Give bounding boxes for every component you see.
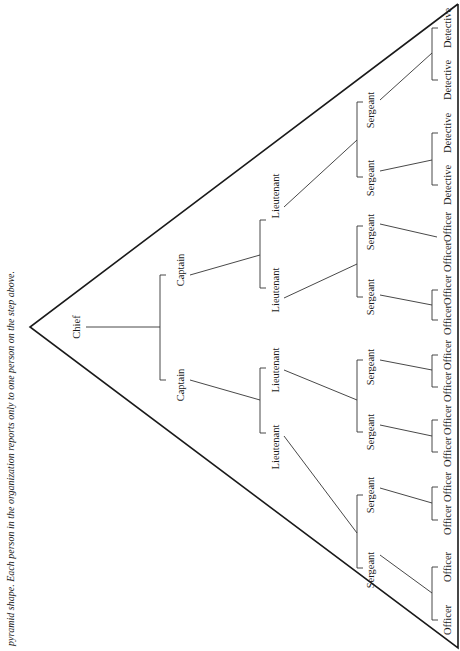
- node-officer: Officer: [442, 274, 453, 305]
- connector-line: [190, 255, 260, 275]
- node-sergeant: Sergeant: [365, 160, 376, 197]
- node-sergeant: Sergeant: [365, 279, 376, 316]
- reporting-lines: [86, 28, 438, 620]
- node-lieutenant: Lieutenant: [270, 424, 281, 469]
- node-officer: Officer: [442, 504, 453, 535]
- connector-line: [190, 380, 260, 400]
- connector-line: [284, 264, 357, 298]
- node-detective: Detective: [442, 60, 453, 101]
- node-officer: Officer: [442, 371, 453, 402]
- node-officer: Officer: [442, 241, 453, 272]
- node-chief: Chief: [71, 315, 82, 339]
- node-lieutenant: Lieutenant: [270, 267, 281, 312]
- node-detective: Detective: [442, 165, 453, 206]
- node-sergeant: Sergeant: [365, 414, 376, 451]
- node-officer: Officer: [442, 404, 453, 435]
- connector-line: [380, 53, 432, 100]
- connector-line: [380, 555, 432, 593]
- node-officer: Officer: [442, 471, 453, 502]
- connector-line: [380, 295, 432, 305]
- node-sergeant: Sergeant: [365, 92, 376, 129]
- node-officer: Officer: [442, 304, 453, 335]
- node-sergeant: Sergeant: [365, 552, 376, 589]
- org-nodes: ChiefCaptainCaptainLieutenantLieutenantL…: [71, 8, 453, 636]
- figure-caption: pyramid shape. Each person in the organi…: [5, 271, 16, 647]
- node-sergeant: Sergeant: [365, 349, 376, 386]
- node-sergeant: Sergeant: [365, 214, 376, 251]
- node-officer: Officer: [442, 551, 453, 582]
- node-captain: Captain: [175, 368, 186, 401]
- pyramid-outline: [30, 4, 458, 648]
- connector-line: [380, 488, 432, 503]
- node-sergeant: Sergeant: [365, 477, 376, 514]
- node-officer: Officer: [442, 436, 453, 467]
- connector-line: [284, 370, 357, 400]
- node-lieutenant: Lieutenant: [270, 173, 281, 218]
- node-detective: Detective: [442, 113, 453, 154]
- node-lieutenant: Lieutenant: [270, 347, 281, 392]
- connector-line: [284, 436, 357, 533]
- node-officer: Officer: [442, 339, 453, 370]
- connector-line: [380, 425, 432, 436]
- connector-line: [380, 224, 437, 237]
- node-detective: Detective: [442, 8, 453, 49]
- org-pyramid-diagram: pyramid shape. Each person in the organi…: [0, 0, 460, 651]
- connector-line: [284, 140, 357, 207]
- node-officer: Officer: [442, 604, 453, 635]
- connector-line: [380, 360, 432, 370]
- connector-line: [380, 160, 432, 171]
- node-captain: Captain: [175, 253, 186, 286]
- node-officer: Officer: [442, 211, 453, 242]
